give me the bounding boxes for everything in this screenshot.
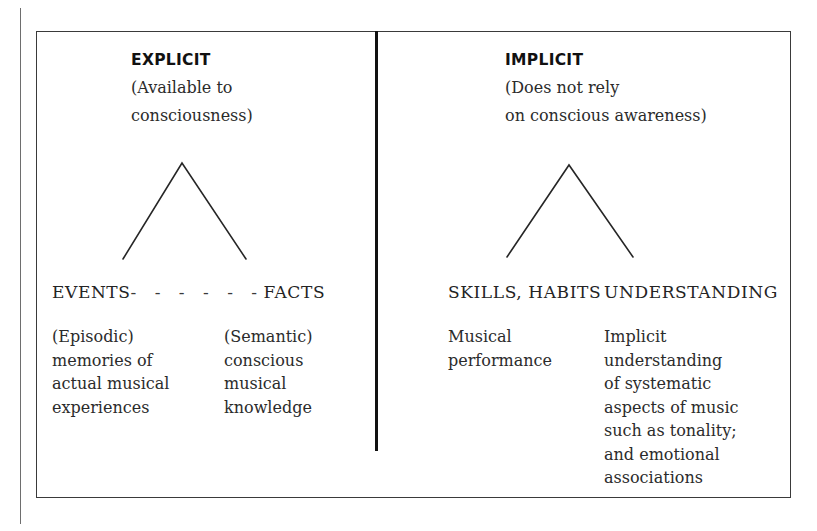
understanding-line-7: associations <box>604 466 739 490</box>
explicit-subtitle-line-1: (Available to <box>131 76 232 100</box>
explicit-category-row: EVENTS- - - - - -FACTS <box>52 282 325 302</box>
semantic-line-1: (Semantic) <box>224 325 312 349</box>
center-divider-line <box>375 31 378 451</box>
semantic-line-4: knowledge <box>224 396 312 420</box>
implicit-subtitle-line-2: on conscious awareness) <box>505 104 707 128</box>
episodic-line-1: (Episodic) <box>52 325 169 349</box>
understanding-line-5: such as tonality; <box>604 419 739 443</box>
skills-habits-line-1: Musical <box>448 325 552 349</box>
understanding-line-3: of systematic <box>604 372 739 396</box>
page-edge-rule <box>20 8 21 524</box>
semantic-description: (Semantic) conscious musical knowledge <box>224 325 312 419</box>
implicit-branch-chevron-icon <box>502 160 638 262</box>
skills-habits-label: SKILLS, HABITS <box>448 282 601 302</box>
understanding-line-2: understanding <box>604 349 739 373</box>
skills-habits-description: Musical performance <box>448 325 552 372</box>
implicit-subtitle-line-1: (Does not rely <box>505 76 619 100</box>
understanding-line-4: aspects of music <box>604 396 739 420</box>
implicit-heading: IMPLICIT <box>505 51 583 69</box>
figure-canvas: EXPLICIT (Available to consciousness) EV… <box>0 0 817 531</box>
understanding-line-1: Implicit <box>604 325 739 349</box>
episodic-line-4: experiences <box>52 396 169 420</box>
episodic-line-2: memories of <box>52 349 169 373</box>
explicit-branch-chevron-icon <box>118 158 252 264</box>
semantic-line-3: musical <box>224 372 312 396</box>
explicit-heading: EXPLICIT <box>131 51 211 69</box>
events-label: EVENTS <box>52 282 131 302</box>
facts-label: FACTS <box>264 282 326 302</box>
understanding-label: UNDERSTANDING <box>604 282 778 302</box>
events-facts-connector: - - - - - - <box>131 282 264 302</box>
understanding-description: Implicit understanding of systematic asp… <box>604 325 739 490</box>
episodic-line-3: actual musical <box>52 372 169 396</box>
skills-habits-line-2: performance <box>448 349 552 373</box>
explicit-subtitle-line-2: consciousness) <box>131 104 253 128</box>
understanding-line-6: and emotional <box>604 443 739 467</box>
episodic-description: (Episodic) memories of actual musical ex… <box>52 325 169 419</box>
semantic-line-2: conscious <box>224 349 312 373</box>
